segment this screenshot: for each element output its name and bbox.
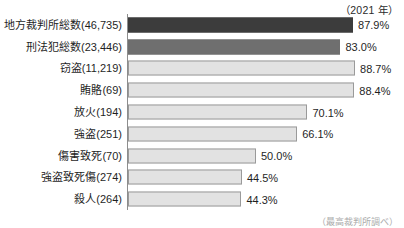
value-label: 70.1% (312, 106, 343, 118)
value-label: 66.1% (302, 128, 333, 140)
bar-row: 傷害致死(70)50.0% (0, 145, 404, 167)
value-label: 88.7% (360, 62, 391, 74)
bar-row: 放火(194)70.1% (0, 101, 404, 123)
bar-row: 強盗(251)66.1% (0, 123, 404, 145)
category-label: 地方裁判所総数(46,735) (0, 19, 122, 31)
bar-and-value: 70.1% (128, 105, 344, 120)
bar-and-value: 44.3% (128, 192, 278, 207)
source-note: （最高裁判所調べ） (317, 215, 398, 228)
bar (128, 83, 354, 98)
bar-row: 窃盗(11,219)88.7% (0, 58, 404, 80)
bar (128, 61, 355, 76)
bar (128, 170, 242, 185)
bar (128, 105, 307, 120)
category-label: 強盗(251) (0, 128, 122, 140)
plot-area: 地方裁判所総数(46,735)87.9%刑法犯総数(23,446)83.0%窃盗… (0, 14, 404, 210)
category-label: 賄賂(69) (0, 84, 122, 96)
bar-and-value: 83.0% (128, 39, 377, 54)
bar (128, 126, 297, 141)
bar-row: 強盗致死傷(274)44.5% (0, 167, 404, 189)
bar-and-value: 88.7% (128, 61, 391, 76)
bar-and-value: 87.9% (128, 17, 389, 32)
value-label: 87.9% (358, 19, 389, 31)
category-label: 傷害致死(70) (0, 150, 122, 162)
bar-and-value: 88.4% (128, 83, 391, 98)
value-label: 44.5% (247, 171, 278, 183)
category-label: 放火(194) (0, 106, 122, 118)
bar-chart: （2021 年） 地方裁判所総数(46,735)87.9%刑法犯総数(23,44… (0, 0, 404, 228)
bar-and-value: 44.5% (128, 170, 278, 185)
value-label: 50.0% (261, 150, 292, 162)
value-label: 83.0% (345, 41, 376, 53)
bar-row: 地方裁判所総数(46,735)87.9% (0, 14, 404, 36)
bar (128, 39, 340, 54)
value-label: 44.3% (246, 193, 277, 205)
bar (128, 192, 241, 207)
bar (128, 148, 256, 163)
category-label: 窃盗(11,219) (0, 62, 122, 74)
bar-row: 賄賂(69)88.4% (0, 79, 404, 101)
category-label: 殺人(264) (0, 193, 122, 205)
value-label: 88.4% (359, 84, 390, 96)
category-label: 強盗致死傷(274) (0, 171, 122, 183)
bar-row: 殺人(264)44.3% (0, 188, 404, 210)
bar-and-value: 66.1% (128, 126, 333, 141)
bar (128, 17, 353, 32)
bar-row: 刑法犯総数(23,446)83.0% (0, 36, 404, 58)
bar-and-value: 50.0% (128, 148, 292, 163)
bar-rows: 地方裁判所総数(46,735)87.9%刑法犯総数(23,446)83.0%窃盗… (0, 14, 404, 210)
category-label: 刑法犯総数(23,446) (0, 41, 122, 53)
